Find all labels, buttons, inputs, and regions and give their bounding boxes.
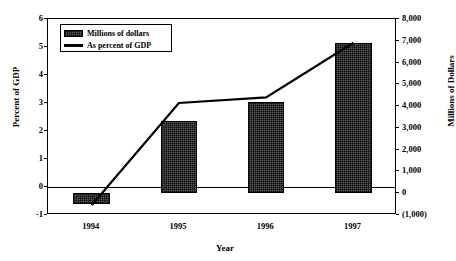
y-right-tick-label: 6,000 — [402, 57, 446, 67]
chart-legend: Millions of dollars As percent of GDP — [60, 24, 172, 52]
legend-item-line: As percent of GDP — [64, 40, 168, 51]
y-left-tick-label: 5 — [9, 41, 43, 51]
y-right-tick-mark — [396, 127, 399, 128]
y-right-tick-label: 7,000 — [402, 35, 446, 45]
y-left-tick-label: 3 — [9, 97, 43, 107]
legend-swatch-bar-icon — [64, 30, 83, 37]
x-axis-title: Year — [0, 243, 450, 253]
y-right-tick-label: 2,000 — [402, 144, 446, 154]
y-right-tick-label: 3,000 — [402, 122, 446, 132]
y-right-tick-mark — [396, 18, 399, 19]
y-left-tick-label: 2 — [9, 125, 43, 135]
y-right-tick-label: 1,000 — [402, 165, 446, 175]
y-right-tick-mark — [396, 62, 399, 63]
y-right-tick-label: 4,000 — [402, 100, 446, 110]
y-left-tick-label: 4 — [9, 69, 43, 79]
x-tick-label: 1995 — [148, 221, 208, 231]
y-right-tick-mark — [396, 214, 399, 215]
y-right-tick-mark — [396, 83, 399, 84]
y-left-tick-label: 6 — [9, 13, 43, 23]
y-right-tick-label: 5,000 — [402, 78, 446, 88]
y-right-tick-mark — [396, 149, 399, 150]
y-right-tick-mark — [396, 105, 399, 106]
x-tick-label: 1994 — [61, 221, 121, 231]
legend-label-line: As percent of GDP — [87, 41, 151, 50]
legend-item-bar: Millions of dollars — [64, 28, 168, 39]
y-right-tick-label: 8,000 — [402, 13, 446, 23]
y-right-tick-mark — [396, 170, 399, 171]
y-axis-right-title: Millions of Dollars — [446, 46, 456, 136]
legend-swatch-line-icon — [64, 44, 83, 47]
x-tick-label: 1996 — [235, 221, 295, 231]
y-right-tick-mark — [396, 192, 399, 193]
x-tick-label: 1997 — [322, 221, 382, 231]
y-right-tick-mark — [396, 40, 399, 41]
as-percent-of-gdp-line — [92, 43, 354, 205]
legend-label-bar: Millions of dollars — [87, 29, 149, 38]
y-left-tick-label: 1 — [9, 153, 43, 163]
y-left-tick-label: 0 — [9, 181, 43, 191]
y-right-tick-label: (1,000) — [402, 209, 446, 219]
y-left-tick-label: -1 — [9, 209, 43, 219]
y-left-tick-mark — [44, 214, 47, 215]
y-right-tick-label: 0 — [402, 187, 446, 197]
